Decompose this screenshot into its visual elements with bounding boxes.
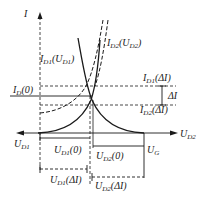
u-d2-axis-label: UD2	[180, 128, 196, 141]
id2-curve-solid	[78, 38, 144, 133]
ud1-0-label: UD1(0)	[54, 144, 82, 157]
id1-delta-label: ID1(ΔI)	[142, 72, 171, 85]
i-axis-arrow-icon	[38, 12, 43, 19]
delta-i-label: ΔI	[167, 90, 178, 101]
id2-delta-label: ID2(ΔI)	[139, 104, 168, 117]
id2-curve-label: ID2(UD2)	[106, 37, 142, 50]
ud2-0-label: UD2(0)	[96, 150, 124, 163]
u-axis-left-arrow-icon	[16, 131, 24, 136]
i-axis-label: I	[23, 8, 28, 19]
id1-curve	[38, 40, 100, 133]
u-axis-right-arrow-icon	[170, 131, 178, 136]
ud2-delta-label: UD2(ΔI)	[95, 180, 127, 193]
id0-label: ID(0)	[12, 84, 34, 97]
u-d1-axis-label: UD1	[14, 138, 30, 151]
id1-curve-label: ID1(UD1)	[39, 53, 75, 66]
diode-iv-diagram: I ID1(UD1) ID2(UD2) ID(0) ID1(ΔI) ΔI ID2…	[0, 0, 208, 199]
ud1-delta-label: UD1(ΔI)	[50, 174, 82, 187]
diagram-canvas: I ID1(UD1) ID2(UD2) ID(0) ID1(ΔI) ΔI ID2…	[0, 0, 208, 199]
id1-curve-dashed	[40, 20, 103, 113]
ug-label: UG	[147, 144, 159, 157]
